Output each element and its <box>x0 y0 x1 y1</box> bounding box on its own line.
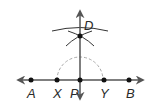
point-d <box>78 34 83 39</box>
point-y <box>102 78 107 83</box>
label-x: X <box>52 86 63 101</box>
label-b: B <box>126 86 135 101</box>
compass-arc-cross-right <box>68 31 94 46</box>
perpendicular-construction-diagram: A X P Y B D <box>0 0 154 106</box>
label-y: Y <box>100 86 110 101</box>
point-a <box>29 78 34 83</box>
point-x <box>55 78 60 83</box>
label-d: D <box>84 18 93 33</box>
point-b <box>127 78 132 83</box>
compass-arc-cross-left <box>66 31 92 46</box>
label-a: A <box>26 86 36 101</box>
label-p: P <box>70 86 79 101</box>
point-p <box>78 78 83 83</box>
